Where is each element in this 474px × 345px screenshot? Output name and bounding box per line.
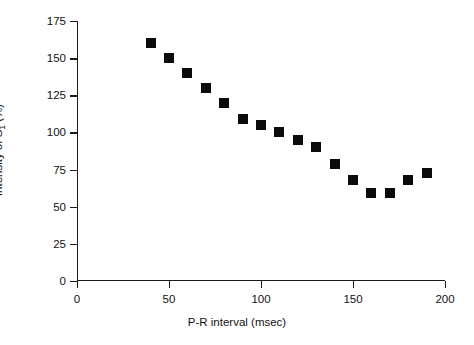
y-axis-title-suffix: (%) xyxy=(0,104,4,125)
y-tick-label: 100 xyxy=(47,126,66,138)
data-point-marker xyxy=(366,188,376,198)
x-tick-mark xyxy=(445,281,446,288)
x-tick-mark xyxy=(169,281,170,288)
data-point-marker xyxy=(146,38,156,48)
data-point-marker xyxy=(201,83,211,93)
data-point-marker xyxy=(311,142,321,152)
y-tick-mark xyxy=(70,21,77,22)
x-tick-label: 0 xyxy=(74,293,80,305)
chart-figure: 0255075100125150175 050100150200 Intensi… xyxy=(0,0,474,345)
y-axis-title-subscript: 1 xyxy=(0,125,7,130)
data-point-marker xyxy=(293,135,303,145)
x-tick-label: 50 xyxy=(163,293,176,305)
data-point-marker xyxy=(182,68,192,78)
y-tick-label: 0 xyxy=(60,275,66,287)
y-tick-mark xyxy=(70,207,77,208)
y-tick-label: 75 xyxy=(53,164,66,176)
data-point-marker xyxy=(219,98,229,108)
data-point-marker xyxy=(274,127,284,137)
y-tick-mark xyxy=(70,95,77,96)
x-tick-label: 200 xyxy=(435,293,454,305)
y-tick-label: 125 xyxy=(47,89,66,101)
data-point-marker xyxy=(164,53,174,63)
y-tick-label: 25 xyxy=(53,238,66,250)
y-axis-line xyxy=(77,21,78,281)
y-tick-mark xyxy=(70,244,77,245)
x-tick-mark xyxy=(353,281,354,288)
data-point-marker xyxy=(348,175,358,185)
y-axis-title-prefix: Intensity of S xyxy=(0,130,4,196)
x-tick-mark xyxy=(261,281,262,288)
x-tick-label: 100 xyxy=(251,293,270,305)
y-tick-mark xyxy=(70,170,77,171)
x-tick-mark xyxy=(77,281,78,288)
data-point-marker xyxy=(238,114,248,124)
y-tick-label: 150 xyxy=(47,52,66,64)
y-tick-label: 175 xyxy=(47,15,66,27)
data-point-marker xyxy=(422,168,432,178)
data-point-marker xyxy=(256,120,266,130)
y-tick-mark xyxy=(70,132,77,133)
plot-area: 0255075100125150175 050100150200 xyxy=(77,21,445,281)
y-axis-title: Intensity of S1 (%) xyxy=(0,104,7,196)
y-tick-mark xyxy=(70,58,77,59)
y-tick-label: 50 xyxy=(53,201,66,213)
y-tick-mark xyxy=(70,281,77,282)
data-point-marker xyxy=(403,175,413,185)
data-point-marker xyxy=(330,159,340,169)
x-tick-label: 150 xyxy=(343,293,362,305)
x-axis-title: P-R interval (msec) xyxy=(0,316,474,328)
data-point-marker xyxy=(385,188,395,198)
